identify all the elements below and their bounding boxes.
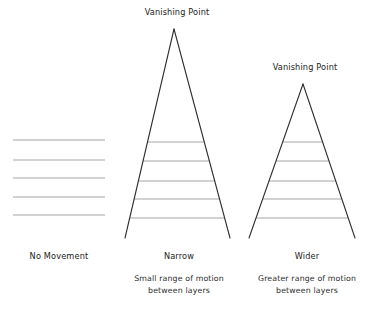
- vanishing-point-label: Vanishing Point: [273, 62, 338, 72]
- diagram-canvas: No MovementVanishing PointNarrowSmall ra…: [0, 0, 370, 312]
- panel-label-no-movement: No Movement: [30, 251, 89, 261]
- triangle-left-leg: [125, 29, 174, 238]
- panel-caption-line2-wider: between layers: [276, 286, 338, 295]
- perspective-diagram: No MovementVanishing PointNarrowSmall ra…: [0, 0, 370, 312]
- panel-caption-line1-narrow: Small range of motion: [134, 274, 224, 283]
- panel-no-movement: No Movement: [13, 140, 105, 261]
- panel-wider: Vanishing PointWiderGreater range of mot…: [249, 62, 356, 295]
- panel-label-wider: Wider: [295, 251, 320, 261]
- vanishing-point-label: Vanishing Point: [145, 7, 210, 17]
- panel-label-narrow: Narrow: [164, 251, 194, 261]
- triangle-right-leg: [174, 29, 230, 238]
- panel-narrow: Vanishing PointNarrowSmall range of moti…: [125, 7, 230, 295]
- panel-caption-line2-narrow: between layers: [148, 286, 210, 295]
- panel-caption-line1-wider: Greater range of motion: [258, 274, 356, 283]
